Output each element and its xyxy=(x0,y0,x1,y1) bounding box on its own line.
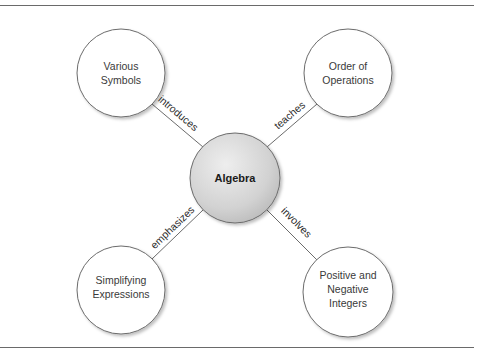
node-label-line: Order of xyxy=(329,60,368,72)
node-label-line: Simplifying xyxy=(96,274,147,286)
node-algebra: Algebra xyxy=(190,133,280,223)
node-order-of-operations: Order of Operations xyxy=(304,29,392,117)
edge-label-involves: involves xyxy=(279,205,314,240)
node-label-line: Integers xyxy=(329,297,367,309)
node-label-line: Positive and xyxy=(319,269,376,281)
concept-map: introduces teaches emphasizes involves V… xyxy=(0,0,480,352)
node-label-line: Negative xyxy=(327,283,369,295)
edge-label-teaches: teaches xyxy=(271,99,307,132)
node-label-line: Symbols xyxy=(101,74,141,86)
center-label: Algebra xyxy=(215,172,257,184)
edge-label-emphasizes: emphasizes xyxy=(148,203,197,251)
node-various-symbols: Various Symbols xyxy=(77,29,165,117)
node-positive-negative-integers: Positive and Negative Integers xyxy=(303,247,393,337)
node-simplifying-expressions: Simplifying Expressions xyxy=(77,246,165,334)
node-label-line: Various xyxy=(104,60,139,72)
node-label-line: Operations xyxy=(322,74,373,86)
node-label-line: Expressions xyxy=(92,288,149,300)
